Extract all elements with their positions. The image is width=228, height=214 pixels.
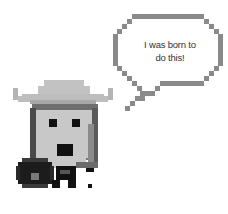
- eye-right: [72, 119, 80, 127]
- eye-left: [49, 119, 57, 127]
- shield-boss: [31, 173, 39, 180]
- hat-brim-left: [13, 88, 18, 100]
- pixel-art-scene: [0, 0, 228, 214]
- shield: [16, 158, 54, 188]
- leg-left: [52, 180, 60, 188]
- sword-blade: [88, 124, 94, 166]
- knight-character: [13, 80, 113, 188]
- mouth: [57, 144, 73, 156]
- hat-brim-right: [108, 88, 113, 100]
- speech-bubble-text: I was born to do this!: [130, 38, 210, 64]
- hair-left: [30, 108, 36, 158]
- hat-band: [32, 104, 98, 110]
- speech-line-1: I was born to: [130, 38, 210, 51]
- sword-hilt-end: [88, 184, 92, 188]
- leg-right: [68, 180, 76, 188]
- sword-guard: [76, 162, 98, 168]
- speech-line-2: do this!: [130, 51, 210, 64]
